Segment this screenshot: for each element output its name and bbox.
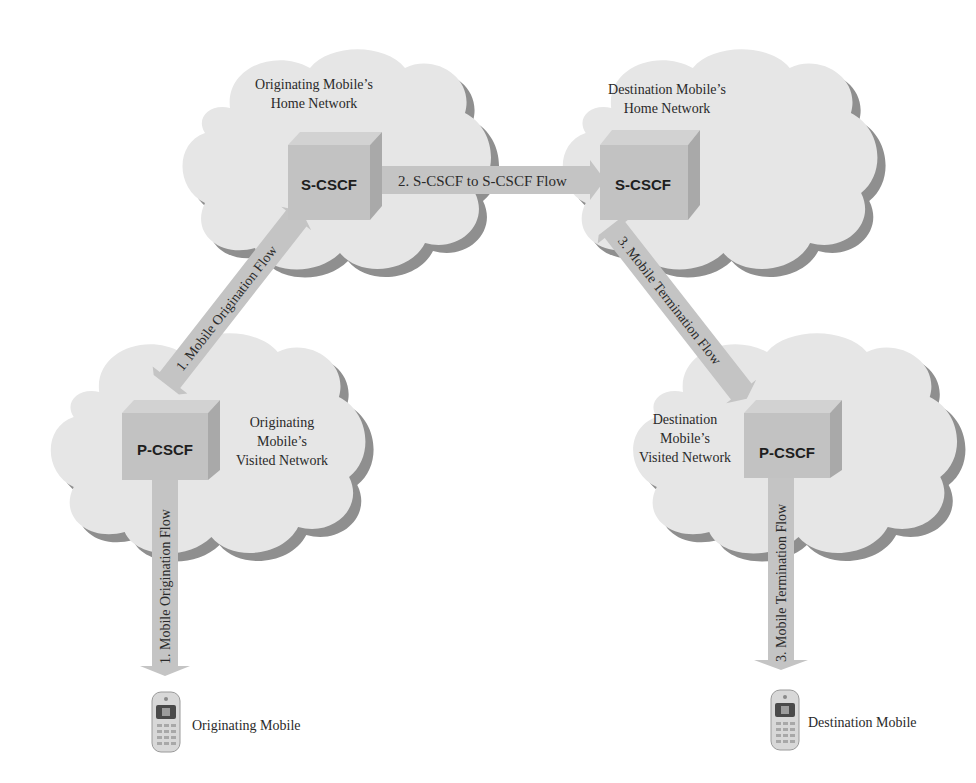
svg-text:1. Mobile Origination Flow: 1. Mobile Origination Flow (158, 508, 173, 664)
svg-text:Destination Mobile’s: Destination Mobile’s (608, 82, 726, 97)
mobile-phone-icon (771, 690, 799, 750)
svg-text:Home Network: Home Network (271, 96, 358, 111)
svg-text:S-CSCF: S-CSCF (615, 176, 671, 193)
flow-arrow-scscf-to-scscf: 2. S-CSCF to S-CSCF Flow (372, 160, 605, 200)
node-s-cscf-destination: S-CSCF (600, 130, 700, 220)
svg-text:Originating: Originating (250, 415, 315, 430)
svg-text:Home Network: Home Network (624, 101, 711, 116)
label-destination-mobile: Destination Mobile (808, 715, 917, 730)
svg-text:Destination: Destination (653, 412, 718, 427)
node-s-cscf-originating: S-CSCF (288, 132, 382, 220)
svg-text:Mobile’s: Mobile’s (660, 431, 710, 446)
label-originating-mobile: Originating Mobile (192, 718, 301, 733)
ims-call-flow-diagram: 2. S-CSCF to S-CSCF Flow 1. Mobile Origi… (0, 0, 976, 783)
svg-text:Originating Mobile’s: Originating Mobile’s (255, 77, 373, 92)
svg-text:Visited Network: Visited Network (639, 450, 731, 465)
svg-text:Visited Network: Visited Network (236, 453, 328, 468)
svg-text:S-CSCF: S-CSCF (301, 176, 357, 193)
svg-text:2. S-CSCF to S-CSCF Flow: 2. S-CSCF to S-CSCF Flow (398, 173, 567, 189)
mobile-phone-icon (152, 692, 180, 752)
svg-text:3. Mobile Termination Flow: 3. Mobile Termination Flow (774, 503, 789, 662)
node-p-cscf-destination: P-CSCF (744, 400, 842, 478)
svg-text:Mobile’s: Mobile’s (257, 434, 307, 449)
node-p-cscf-originating: P-CSCF (122, 400, 220, 480)
svg-text:P-CSCF: P-CSCF (137, 441, 193, 458)
svg-text:P-CSCF: P-CSCF (759, 444, 815, 461)
